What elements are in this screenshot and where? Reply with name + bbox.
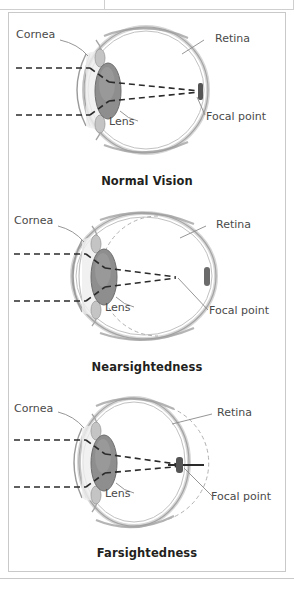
label-focal-point: Focal point [209,304,269,317]
scan-vertical-rule-right [293,0,294,10]
label-focal-point: Focal point [206,110,266,123]
lens-shape [91,435,117,491]
page-bottom-rule [0,578,294,579]
diagram-farsightedness: Cornea Lens Retina Focal point Farsighte… [8,386,286,572]
label-lens: Lens [105,487,130,500]
label-retina: Retina [215,32,250,45]
leader-cornea [58,412,84,428]
lens-shape [95,63,121,119]
leader-cornea [58,226,84,242]
lens-shape [91,249,117,305]
label-lens: Lens [109,115,134,128]
label-retina: Retina [217,406,252,419]
focal-point-marker [198,83,203,100]
label-lens: Lens [105,301,130,314]
leader-retina [172,414,212,424]
label-cornea: Cornea [14,402,53,415]
scanned-page-remnant: · · · · [0,0,294,11]
label-cornea: Cornea [14,214,53,227]
caption-nearsightedness: Nearsightedness [8,360,286,374]
diagram-normal-vision: Cornea Lens Retina Focal point Normal Vi… [8,14,286,200]
scan-vertical-rule-left [104,0,105,10]
retina-focus-marker [204,267,210,286]
focal-point-marker [176,457,183,473]
label-retina: Retina [216,218,251,231]
eye-vision-figure-page: · · · · [0,0,294,590]
leader-cornea [60,40,88,56]
label-focal-point: Focal point [211,490,271,503]
scan-horizontal-rule [0,9,294,10]
label-cornea: Cornea [16,28,55,41]
caption-farsightedness: Farsightedness [8,546,286,560]
caption-normal-vision: Normal Vision [8,174,286,188]
diagram-nearsightedness: Cornea Lens Retina Focal point Nearsight… [8,200,286,386]
scan-ghost-text: · · · · [24,0,47,4]
